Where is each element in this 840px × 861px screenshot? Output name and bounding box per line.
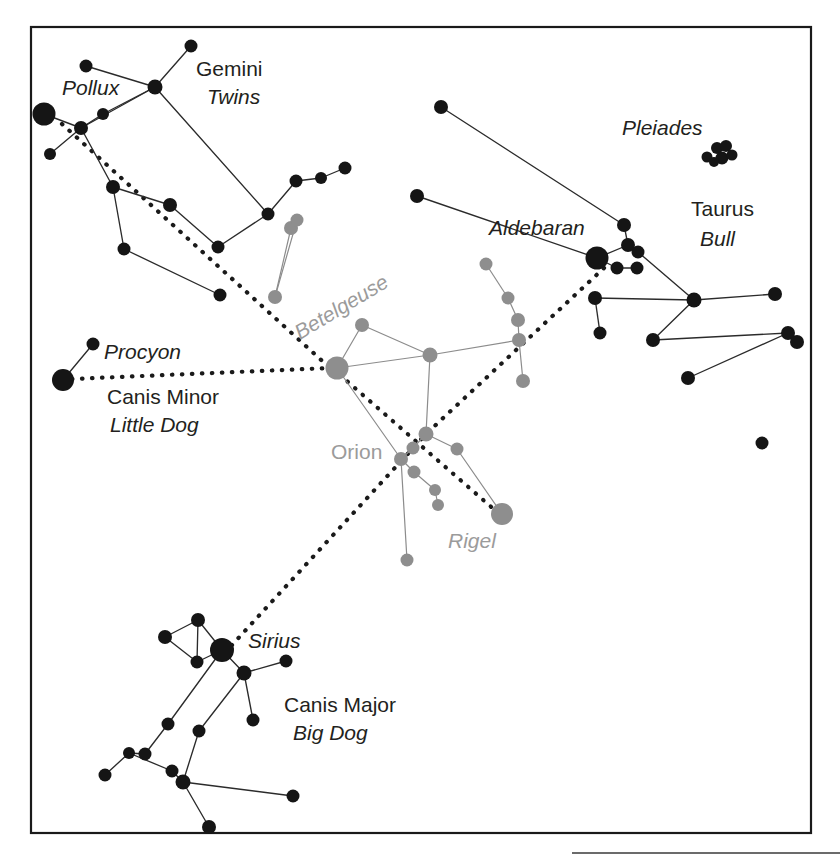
star-taurus-t12[interactable] <box>594 327 607 340</box>
star-orion-o3[interactable] <box>423 348 438 363</box>
star-sirius[interactable] <box>210 638 234 662</box>
star-canis-major-k5[interactable] <box>237 666 252 681</box>
star-taurus-t5[interactable] <box>611 262 624 275</box>
star-taurus-t17[interactable] <box>756 437 769 450</box>
label-pollux: Pollux <box>62 76 121 99</box>
star-orion-o8[interactable] <box>516 374 530 388</box>
star-gemini-g2[interactable] <box>74 121 88 135</box>
star-canis-major-k3[interactable] <box>191 613 205 627</box>
star-canis-major-k14[interactable] <box>176 775 191 790</box>
star-taurus-t4[interactable] <box>632 246 645 259</box>
label-gemini: Gemini <box>196 57 263 80</box>
star-canis-major-k13[interactable] <box>166 765 179 778</box>
star-orion-o7[interactable] <box>512 333 526 347</box>
star-aldebaran[interactable] <box>586 247 609 270</box>
label-sirius: Sirius <box>248 629 301 652</box>
star-canis-major-k4[interactable] <box>158 630 172 644</box>
label-canis-major: Canis Major <box>284 693 396 716</box>
star-canis-major-k16[interactable] <box>202 820 216 834</box>
star-canis-major-k2[interactable] <box>191 656 204 669</box>
star-orion-o11[interactable] <box>394 452 408 466</box>
star-pollux[interactable] <box>33 103 56 126</box>
star-orion-o13[interactable] <box>408 466 421 479</box>
label-pleiades: Pleiades <box>622 116 703 139</box>
label-taurus: Taurus <box>691 197 754 220</box>
star-gemini-g10[interactable] <box>163 198 177 212</box>
star-orion-o17[interactable] <box>401 554 414 567</box>
star-taurus-t7[interactable] <box>434 100 448 114</box>
star-taurus-t16[interactable] <box>681 371 695 385</box>
star-canis-major-k6[interactable] <box>280 655 293 668</box>
label-aldebaran: Aldebaran <box>487 216 585 239</box>
star-gemini-g7[interactable] <box>185 40 198 53</box>
star-canis-major-k8[interactable] <box>162 718 175 731</box>
star-canis-major-k10[interactable] <box>139 748 152 761</box>
star-pleiades-p6[interactable] <box>709 157 719 167</box>
star-taurus-t2[interactable] <box>617 218 631 232</box>
label-canis-minor: Canis Minor <box>107 385 219 408</box>
star-gemini-g5[interactable] <box>97 108 109 120</box>
star-orion-o9[interactable] <box>419 427 434 442</box>
star-gemini-g14[interactable] <box>290 175 303 188</box>
star-gemini-g3[interactable] <box>80 60 93 73</box>
star-orion-o14[interactable] <box>429 484 441 496</box>
star-gemini-g8[interactable] <box>106 180 120 194</box>
label-big-dog: Big Dog <box>293 721 368 744</box>
star-canis-major-k7[interactable] <box>247 714 260 727</box>
star-gemini-g6[interactable] <box>148 80 163 95</box>
star-canis-major-k12[interactable] <box>99 769 112 782</box>
star-orion-o6[interactable] <box>511 313 525 327</box>
star-canis-major-k15[interactable] <box>287 790 300 803</box>
label-rigel: Rigel <box>448 529 497 552</box>
star-gemini-g4[interactable] <box>44 148 56 160</box>
star-gemini-g13[interactable] <box>262 208 275 221</box>
star-orion-o15[interactable] <box>432 499 444 511</box>
star-gemini-g15[interactable] <box>315 172 327 184</box>
star-canis-major-k11[interactable] <box>123 747 135 759</box>
star-taurus-t6[interactable] <box>631 262 644 275</box>
star-canis-minor-cm2[interactable] <box>87 338 100 351</box>
star-pleiades-p5[interactable] <box>727 150 738 161</box>
star-procyon[interactable] <box>52 369 74 391</box>
label-bull: Bull <box>700 227 736 250</box>
star-taurus-t13[interactable] <box>768 287 782 301</box>
star-taurus-t9[interactable] <box>687 293 702 308</box>
label-twins: Twins <box>207 85 261 108</box>
star-gemini-g11[interactable] <box>212 241 225 254</box>
star-taurus-t15[interactable] <box>790 335 804 349</box>
label-little-dog: Little Dog <box>110 413 199 436</box>
star-orion-o20[interactable] <box>291 214 304 227</box>
star-canis-major-k9[interactable] <box>193 725 206 738</box>
star-betelgeuse[interactable] <box>326 357 349 380</box>
star-orion-o2[interactable] <box>355 318 369 332</box>
star-taurus-t8[interactable] <box>410 189 424 203</box>
sky-map-canvas: PolluxGeminiTwinsPleiadesTaurusBullAldeb… <box>0 0 840 861</box>
star-taurus-t11[interactable] <box>588 291 602 305</box>
label-orion: Orion <box>331 440 382 463</box>
star-rigel[interactable] <box>491 503 513 525</box>
star-gemini-g16[interactable] <box>339 162 352 175</box>
label-procyon: Procyon <box>104 340 181 363</box>
star-orion-o5[interactable] <box>502 292 515 305</box>
star-gemini-g12[interactable] <box>214 289 227 302</box>
star-orion-o12[interactable] <box>451 443 464 456</box>
star-taurus-t10[interactable] <box>646 333 660 347</box>
star-orion-o4[interactable] <box>480 258 493 271</box>
star-gemini-g9[interactable] <box>118 243 131 256</box>
star-orion-o19[interactable] <box>268 290 282 304</box>
star-orion-o10[interactable] <box>407 442 420 455</box>
star-chart: PolluxGeminiTwinsPleiadesTaurusBullAldeb… <box>0 0 840 861</box>
